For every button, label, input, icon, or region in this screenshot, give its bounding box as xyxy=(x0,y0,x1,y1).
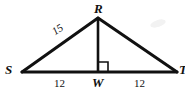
triangle-drawing xyxy=(0,0,185,107)
segment-RT xyxy=(98,18,177,72)
measure-label-sw: 12 xyxy=(54,78,65,89)
geometry-figure: R S T W 15 12 12 xyxy=(0,0,185,107)
vertex-label-r: R xyxy=(94,2,103,15)
vertex-label-w: W xyxy=(92,76,104,89)
vertex-label-s: S xyxy=(5,63,12,76)
measure-label-wt: 12 xyxy=(134,78,145,89)
vertex-label-t: T xyxy=(179,63,185,76)
